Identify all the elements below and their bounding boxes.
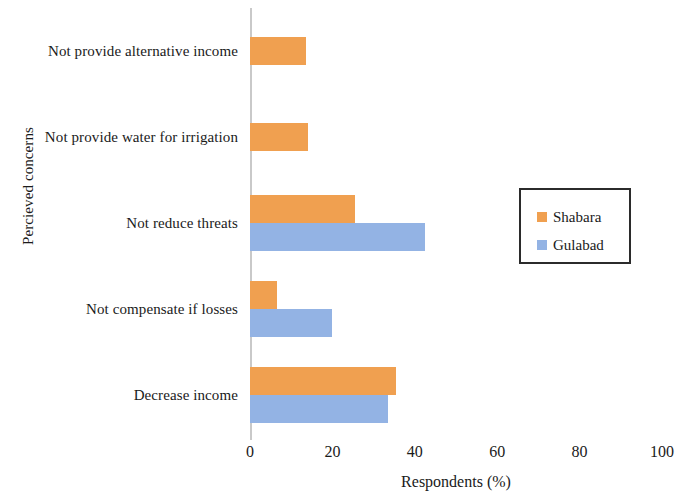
legend-item-shabara: Shabara — [537, 208, 601, 226]
x-axis-tick-label: 40 — [407, 443, 423, 461]
x-axis-tick-label: 80 — [572, 443, 588, 461]
bar-shabara — [250, 37, 306, 65]
category-row: Not compensate if losses — [250, 266, 662, 352]
y-axis-title: Percieved concerns — [17, 106, 39, 266]
legend-swatch-icon — [537, 212, 547, 222]
category-row: Not provide alternative income — [250, 8, 662, 94]
bar-shabara — [250, 123, 308, 151]
bar-shabara — [250, 195, 355, 223]
x-axis-tick-labels: 020406080100 — [250, 443, 662, 467]
x-axis-tick-label: 20 — [324, 443, 340, 461]
category-row: Not provide water for irrigation — [250, 94, 662, 180]
chart-legend: ShabaraGulabad — [519, 188, 631, 264]
category-label: Not reduce threats — [126, 215, 238, 232]
bar-gulabad — [250, 223, 425, 251]
x-axis-title: Respondents (%) — [250, 473, 662, 491]
category-label: Decrease income — [134, 387, 238, 404]
x-axis-tick-label: 0 — [246, 443, 254, 461]
x-axis-tick-label: 100 — [650, 443, 674, 461]
category-label: Not provide water for irrigation — [45, 129, 238, 146]
bar-chart-figure: Percieved concerns Decrease incomeNot co… — [0, 0, 692, 501]
legend-label: Shabara — [553, 210, 601, 225]
bar-shabara — [250, 281, 277, 309]
category-label: Not provide alternative income — [48, 43, 238, 60]
x-axis-tick-label: 60 — [489, 443, 505, 461]
category-label: Not compensate if losses — [86, 301, 238, 318]
legend-label: Gulabad — [553, 238, 604, 253]
legend-swatch-icon — [537, 240, 547, 250]
category-row: Decrease income — [250, 352, 662, 438]
bar-gulabad — [250, 395, 388, 423]
bar-shabara — [250, 367, 396, 395]
bar-gulabad — [250, 309, 332, 337]
legend-item-gulabad: Gulabad — [537, 236, 604, 254]
